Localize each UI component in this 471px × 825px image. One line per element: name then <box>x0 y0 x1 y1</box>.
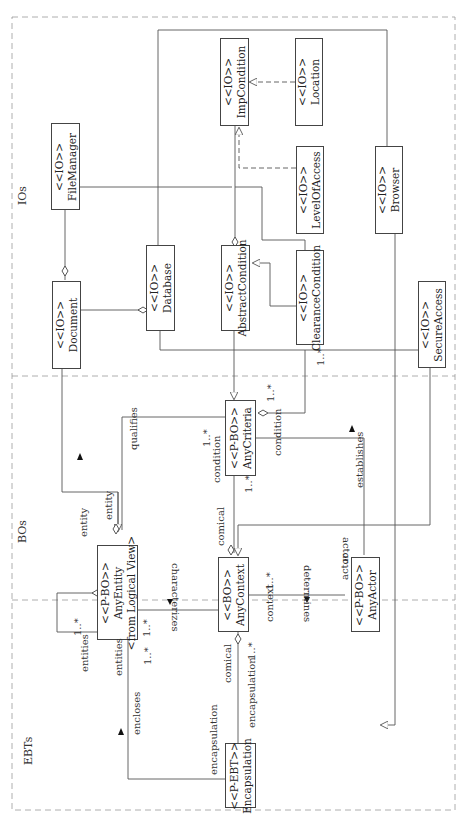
stereotype: <<IO>> <box>297 151 310 229</box>
class-name: AnyContext <box>234 564 247 626</box>
class-name: LevelOfAccess <box>310 151 323 229</box>
stereotype: <<IO>> <box>223 239 236 336</box>
stereotype: <<IO>> <box>419 288 432 362</box>
label-multiplicity: 1..* <box>141 619 152 637</box>
class-name: Document <box>67 298 80 353</box>
class-name: Encapsulation <box>241 738 254 814</box>
stereotype: <<P-BO>> <box>353 564 366 626</box>
label-multiplicity: 1..* <box>264 572 275 590</box>
label-encapsulation: encapsulation <box>208 704 219 775</box>
label-multiplicity: 1..* <box>142 647 153 665</box>
label-multiplicity: 1..* <box>201 429 212 447</box>
stereotype: <<P-BO>> <box>98 535 111 649</box>
stereotype: <<IO>> <box>296 58 309 106</box>
stereotype: <<IO>> <box>222 46 235 119</box>
class-clearance-condition[interactable]: <<IO>>ClearanceCondition <box>296 250 324 345</box>
class-name: AbstractCondition <box>236 239 249 336</box>
label-characterizes: characterizes <box>170 563 181 632</box>
class-name: ImpCondition <box>235 46 248 119</box>
class-name: FileManager <box>66 132 79 200</box>
stereotype: <<IO>> <box>54 298 67 353</box>
class-name: Database <box>161 263 174 313</box>
class-file-manager[interactable]: <<IO>>FileManager <box>51 123 80 210</box>
class-database[interactable]: <<IO>>Database <box>146 245 175 331</box>
label-encloses: encloses <box>131 692 142 735</box>
label-comical: comical <box>222 644 233 683</box>
stereotype: <<BO>> <box>221 564 234 626</box>
label-condition: condition <box>211 436 222 483</box>
zone-label-ebts: EBTs <box>22 737 35 765</box>
class-name: SecureAccess <box>432 288 445 362</box>
label-multiplicity: 1..* <box>243 475 254 493</box>
class-name: AnyCriteria <box>241 407 254 469</box>
class-any-entity[interactable]: <<P-BO>>AnyEntity<from Logical View> <box>97 545 138 640</box>
class-location[interactable]: <<IO>>Location <box>295 38 323 126</box>
class-name: ClearanceCondition <box>310 245 323 351</box>
class-any-context[interactable]: <<BO>>AnyContext <box>218 557 249 632</box>
label-entity: entity <box>103 491 114 520</box>
stereotype: <<IO>> <box>53 132 66 200</box>
label-establishes: establishes <box>354 432 365 488</box>
class-name: Location <box>309 58 322 106</box>
class-any-criteria[interactable]: <<P-BO>>AnyCriteria <box>225 400 256 476</box>
label-condition: condition <box>272 409 283 456</box>
label-actor: actor <box>339 554 350 580</box>
label-multiplicity: 1..* <box>265 384 276 402</box>
stereotype: <<P-BO>> <box>228 407 241 469</box>
stereotype: <<IO>> <box>297 245 310 351</box>
stereotype: <<IO>> <box>376 166 389 214</box>
class-name: AnyEntity <box>111 535 124 649</box>
label-encapsulation: encapsulation <box>246 657 257 728</box>
class-secure-access[interactable]: <<IO>>SecureAccess <box>418 281 446 368</box>
class-abstract-condition[interactable]: <<IO>>AbstractCondition <box>221 245 250 331</box>
class-any-actor[interactable]: <<P-BO>>AnyActor <box>351 557 380 632</box>
label-entity: entity <box>78 508 89 537</box>
label-multiplicity: 1..* <box>315 348 326 366</box>
class-encapsulation[interactable]: <<P-EBT>>Encapsulation <box>225 743 256 808</box>
label-entities: entities <box>79 634 90 672</box>
class-level-of-access[interactable]: <<IO>>LevelOfAccess <box>296 146 324 234</box>
stereotype: <<IO>> <box>148 263 161 313</box>
label-qualifies: qualifies <box>128 407 139 450</box>
class-name: Browser <box>389 166 402 214</box>
class-name: AnyActor <box>366 564 379 626</box>
class-origin: <from Logical View> <box>124 535 137 649</box>
label-determines: determines <box>302 565 313 622</box>
class-imp-condition[interactable]: <<IO>>ImpCondition <box>220 38 249 126</box>
zone-label-ios: IOs <box>16 186 29 205</box>
stereotype: <<P-EBT>> <box>228 738 241 814</box>
class-browser[interactable]: <<IO>>Browser <box>375 146 403 234</box>
label-entities: entities <box>113 638 124 676</box>
label-comical: comical <box>215 507 226 546</box>
zone-label-bos: BOs <box>16 520 29 543</box>
class-document[interactable]: <<IO>>Document <box>52 281 81 369</box>
